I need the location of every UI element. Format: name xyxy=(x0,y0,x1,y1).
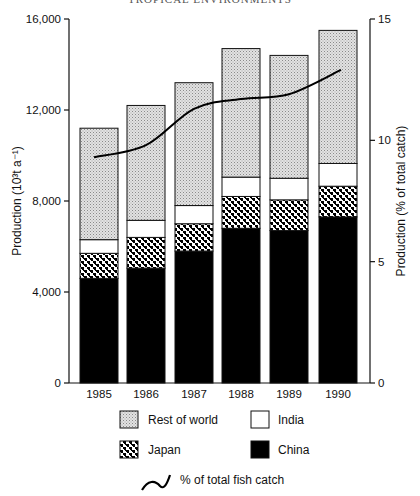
legend-label-japan: Japan xyxy=(148,443,181,457)
bar-segment-rest-of-world xyxy=(270,55,308,178)
bar-segment-japan xyxy=(319,186,357,217)
x-tick-label: 1986 xyxy=(133,388,159,400)
india-swatch xyxy=(251,411,269,428)
bar-segment-rest-of-world xyxy=(175,83,213,206)
x-tick-label: 1988 xyxy=(228,388,254,400)
x-axis-labels: 198519861987198819891990 xyxy=(86,388,351,400)
right-tick-label: 10 xyxy=(378,134,391,146)
bar-segment-rest-of-world xyxy=(222,49,260,178)
bar-1990 xyxy=(319,30,357,383)
wave-line-icon xyxy=(142,475,170,490)
bar-segment-china xyxy=(222,228,260,383)
left-tick-label: 8,000 xyxy=(32,195,61,207)
left-tick-label: 0 xyxy=(55,377,61,389)
bar-segment-china xyxy=(80,278,118,383)
legend-item-india: India xyxy=(251,411,304,428)
legend-item-china: China xyxy=(251,441,310,458)
bar-segment-china xyxy=(127,268,165,383)
bar-segment-japan xyxy=(127,237,165,268)
bar-segment-china xyxy=(270,231,308,383)
right-y-axis: 051015 xyxy=(370,13,391,389)
x-tick-label: 1987 xyxy=(181,388,207,400)
bar-segment-rest-of-world xyxy=(319,30,357,163)
japan-swatch xyxy=(120,441,138,458)
left-axis-title: Production (10³t a⁻¹) xyxy=(10,146,24,255)
right-tick-label: 15 xyxy=(378,13,391,25)
left-tick-label: 16,000 xyxy=(26,13,61,25)
legend: Rest of world India Japan China % of tot… xyxy=(120,411,310,490)
x-tick-label: 1990 xyxy=(325,388,351,400)
right-tick-label: 5 xyxy=(378,256,384,268)
right-tick-label: 0 xyxy=(378,377,384,389)
bar-segment-china xyxy=(319,217,357,383)
bar-segment-japan xyxy=(222,196,260,228)
bar-1986 xyxy=(127,105,165,383)
legend-label-china: China xyxy=(278,443,310,457)
bar-segment-india xyxy=(270,178,308,200)
legend-item-rest-of-world: Rest of world xyxy=(120,411,218,428)
bar-1989 xyxy=(270,55,308,383)
bar-segment-japan xyxy=(80,253,118,278)
left-tick-label: 12,000 xyxy=(26,104,61,116)
bar-1985 xyxy=(80,128,118,383)
china-swatch xyxy=(251,441,269,458)
bar-segment-rest-of-world xyxy=(80,128,118,239)
bar-1987 xyxy=(175,83,213,383)
bar-segment-japan xyxy=(175,224,213,251)
fish-production-chart: 04,0008,00012,00016,000 051015 198519861… xyxy=(0,0,420,496)
left-tick-label: 4,000 xyxy=(32,286,61,298)
legend-label-india: India xyxy=(278,413,304,427)
bar-segment-india xyxy=(319,163,357,186)
legend-label-line: % of total fish catch xyxy=(180,473,284,487)
x-tick-label: 1989 xyxy=(276,388,302,400)
right-axis-title: Production (% of total catch) xyxy=(394,126,408,277)
rest-of-world-swatch xyxy=(120,411,138,428)
bar-segment-china xyxy=(175,251,213,383)
legend-label-rest-of-world: Rest of world xyxy=(148,413,218,427)
bar-segment-rest-of-world xyxy=(127,105,165,220)
bar-segment-japan xyxy=(270,200,308,231)
legend-item-japan: Japan xyxy=(120,441,181,458)
bar-segment-india xyxy=(127,220,165,237)
bar-segment-india xyxy=(80,240,118,254)
bar-segment-india xyxy=(175,206,213,224)
x-tick-label: 1985 xyxy=(86,388,112,400)
bar-segment-india xyxy=(222,177,260,196)
legend-item-line: % of total fish catch xyxy=(142,473,284,490)
